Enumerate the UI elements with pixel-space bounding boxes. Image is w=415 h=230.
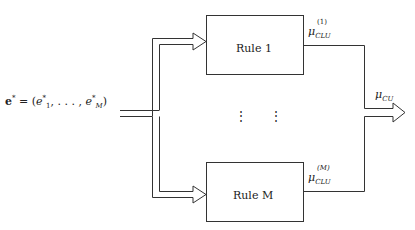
branch-arrow-rule-1 bbox=[153, 33, 207, 117]
final-output-label: μCU bbox=[375, 88, 393, 101]
output-subscript: CLU bbox=[315, 178, 331, 186]
output-arrow bbox=[365, 103, 406, 122]
input-equation: e* = (e*1, . . . , e*M) bbox=[5, 94, 107, 110]
last-element-sup: * bbox=[92, 94, 96, 102]
vertical-ellipsis-left: ⋮ bbox=[235, 114, 247, 118]
rule-1-output-line bbox=[304, 46, 365, 109]
branch-arrow-rule-m bbox=[153, 117, 207, 204]
close-paren: ) bbox=[103, 95, 107, 108]
rule-m-label: Rule M bbox=[233, 189, 273, 202]
output-superscript: (M) bbox=[317, 164, 330, 172]
rule-m-output-label: μCLU (M) bbox=[308, 171, 331, 184]
output-subscript: CU bbox=[382, 95, 393, 103]
diagram-canvas bbox=[0, 0, 415, 230]
rule-1-output-label: μCLU (1) bbox=[308, 25, 331, 38]
output-subscript: CLU bbox=[315, 32, 331, 40]
element-ellipsis: , . . . , bbox=[51, 95, 86, 108]
equation-equals: = ( bbox=[16, 95, 37, 108]
vertical-ellipsis-right: ⋮ bbox=[270, 114, 282, 118]
first-element-sup: * bbox=[43, 94, 47, 102]
rule-1-label: Rule 1 bbox=[236, 42, 272, 55]
output-superscript: (1) bbox=[317, 18, 327, 26]
last-element-sub: M bbox=[95, 102, 102, 110]
input-vector-symbol: e bbox=[5, 95, 12, 108]
